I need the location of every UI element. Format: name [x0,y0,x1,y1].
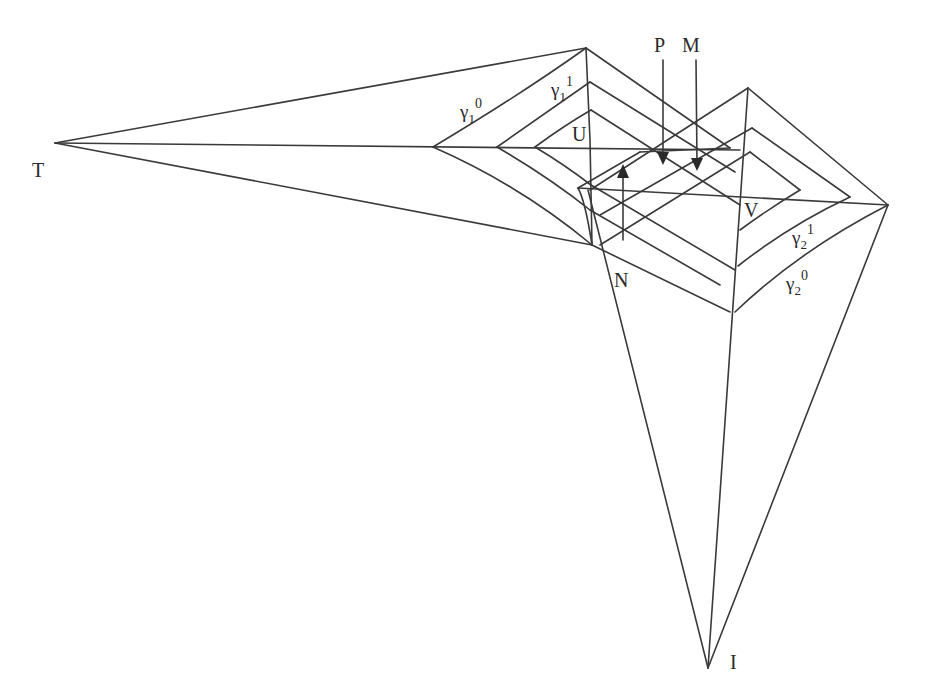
label-I: I [730,652,737,672]
label-U: U [572,124,586,144]
label-gamma1-1: γ11 [551,80,573,99]
label-T: T [32,160,44,180]
label-gamma1-0: γ10 [460,102,482,121]
label-N: N [614,270,628,290]
diagram-canvas: T I U V P M N γ10 γ11 γ21 γ20 [0,0,925,698]
label-P: P [654,35,665,55]
label-V: V [744,200,758,220]
label-gamma2-1: γ21 [792,228,814,247]
left-kite [55,48,740,312]
label-M: M [682,35,700,55]
label-gamma2-0: γ20 [786,274,808,293]
